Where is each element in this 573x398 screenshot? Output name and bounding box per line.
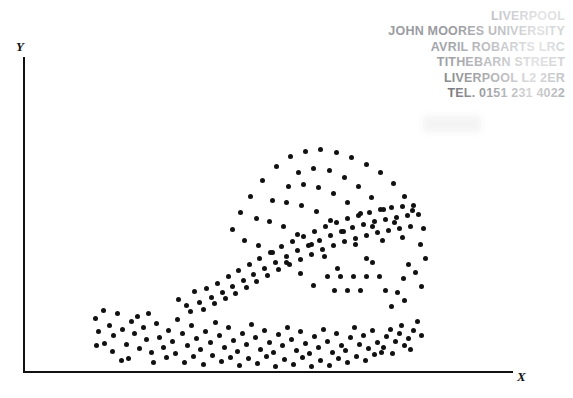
scatter-point — [370, 224, 375, 229]
scatter-point — [204, 286, 209, 291]
scatter-point — [137, 346, 142, 351]
scatter-point — [226, 325, 231, 330]
scatter-point — [149, 350, 154, 355]
scatter-point — [370, 260, 375, 265]
scatter-point — [220, 290, 225, 295]
scatter-point — [284, 254, 289, 259]
scatter-point — [369, 195, 374, 200]
scatter-point — [96, 329, 101, 334]
x-axis-line — [23, 371, 513, 373]
scatter-point — [242, 238, 247, 243]
scatter-point — [372, 352, 377, 357]
scatter-point — [271, 350, 276, 355]
scatter-point — [230, 227, 235, 232]
scatter-point — [209, 295, 214, 300]
scatter-point — [247, 262, 252, 267]
scatter-point — [419, 284, 424, 289]
scatter-point — [254, 216, 259, 221]
scatter-point — [236, 268, 241, 273]
scatter-point — [274, 164, 279, 169]
scatter-point — [115, 311, 120, 316]
scatter-plot-figure: LIVERPOOL JOHN MOORES UNIVERSITY AVRIL R… — [0, 0, 573, 398]
scatter-point — [281, 224, 286, 229]
scatter-point — [264, 354, 269, 359]
scatter-point — [307, 351, 312, 356]
scatter-point — [377, 274, 382, 279]
scatter-point — [291, 362, 296, 367]
plot-area: Y X — [0, 0, 573, 398]
scatter-point — [364, 162, 369, 167]
scatter-point — [321, 327, 326, 332]
scatter-point — [303, 341, 308, 346]
x-axis-label: X — [517, 370, 526, 383]
scatter-point — [381, 207, 386, 212]
scatter-point — [246, 356, 251, 361]
scatter-point — [334, 331, 339, 336]
scatter-point — [384, 334, 389, 339]
scatter-point — [328, 233, 333, 238]
scatter-point — [107, 323, 112, 328]
scatter-point — [262, 328, 267, 333]
scatter-point — [254, 279, 259, 284]
scatter-point — [276, 267, 281, 272]
scatter-point — [318, 358, 323, 363]
scatter-point — [314, 209, 319, 214]
scatter-point — [303, 149, 308, 154]
scatter-point — [120, 327, 125, 332]
scatter-point — [222, 345, 227, 350]
scatter-point — [298, 271, 303, 276]
scatter-point — [301, 182, 306, 187]
scatter-point — [111, 333, 116, 338]
scatter-point — [379, 350, 384, 355]
scatter-point — [345, 216, 350, 221]
scatter-point — [350, 225, 355, 230]
scatter-point — [212, 301, 217, 306]
scatter-point — [375, 230, 380, 235]
scatter-point — [294, 348, 299, 353]
scatter-point — [402, 194, 407, 199]
scatter-point — [197, 300, 202, 305]
scatter-point — [349, 155, 354, 160]
scatter-point — [284, 260, 289, 265]
scatter-point — [298, 257, 303, 262]
scatter-point — [258, 347, 263, 352]
scatter-point — [282, 357, 287, 362]
scatter-point — [370, 328, 375, 333]
scatter-point — [408, 224, 413, 229]
scatter-point — [410, 208, 415, 213]
scatter-point — [421, 226, 426, 231]
scatter-point — [317, 238, 322, 243]
scatter-point — [411, 203, 416, 208]
scatter-point — [378, 170, 383, 175]
scatter-point — [345, 288, 350, 293]
scatter-point — [309, 242, 314, 247]
scatter-point — [389, 205, 394, 210]
scatter-point — [405, 213, 410, 218]
scatter-point — [135, 314, 140, 319]
scatter-point — [119, 358, 124, 363]
scatter-point — [339, 343, 344, 348]
scatter-point — [260, 178, 265, 183]
scatter-point — [358, 288, 363, 293]
scatter-point — [331, 191, 336, 196]
scatter-point — [235, 349, 240, 354]
scatter-point — [323, 224, 328, 229]
scatter-point — [325, 339, 330, 344]
scatter-point — [381, 345, 386, 350]
scatter-point — [301, 234, 306, 239]
scatter-point — [217, 333, 222, 338]
scatter-point — [361, 222, 366, 227]
scatter-point — [335, 266, 340, 271]
scatter-point — [364, 256, 369, 261]
scatter-point — [295, 248, 300, 253]
scatter-point — [146, 311, 151, 316]
scatter-point — [231, 338, 236, 343]
scatter-point — [345, 200, 350, 205]
scatter-point — [400, 204, 405, 209]
scatter-point — [194, 336, 199, 341]
scatter-point — [334, 220, 339, 225]
scatter-point — [363, 358, 368, 363]
scatter-point — [241, 278, 246, 283]
scatter-point — [185, 343, 190, 348]
scatter-point — [395, 290, 400, 295]
